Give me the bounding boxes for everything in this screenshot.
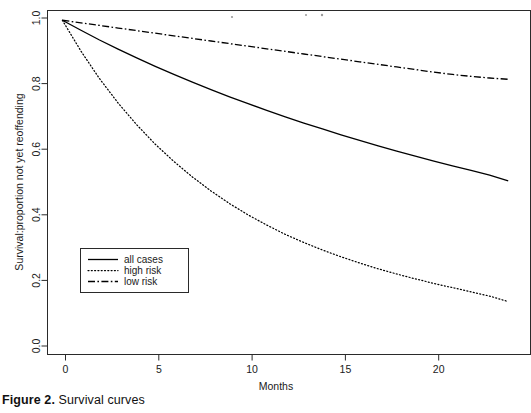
scan-speck xyxy=(321,14,323,16)
legend-label: high risk xyxy=(124,265,162,276)
x-tick-label: 10 xyxy=(246,363,258,375)
legend-label: all cases xyxy=(124,254,163,265)
x-tick-label: 20 xyxy=(433,363,445,375)
y-tick-label: 0.8 xyxy=(30,76,42,91)
x-tick-label: 5 xyxy=(156,363,162,375)
y-tick-label: 1.0 xyxy=(30,11,42,26)
chart-legend[interactable]: all cases high risk low risk xyxy=(81,249,189,293)
figure-caption-body: Survival curves xyxy=(59,393,145,407)
curve-low-risk xyxy=(62,20,508,79)
curve-all-cases xyxy=(62,20,508,181)
figure-container: 1.0 0.8 0.6 0.4 0.2 0.0 Survival:proport… xyxy=(0,0,531,413)
y-tick-label: 0.2 xyxy=(30,273,42,288)
y-axis: 1.0 0.8 0.6 0.4 0.2 0.0 Survival:proport… xyxy=(13,11,48,354)
figure-caption: Figure 2. Survival curves xyxy=(2,393,145,407)
scan-speck xyxy=(305,14,307,16)
x-tick-label: 15 xyxy=(340,363,352,375)
x-axis: 0 5 10 15 20 Months xyxy=(63,355,445,393)
survival-curves-chart: 1.0 0.8 0.6 0.4 0.2 0.0 Survival:proport… xyxy=(0,0,531,413)
x-axis-title: Months xyxy=(259,380,293,392)
x-tick-label: 0 xyxy=(63,363,69,375)
scan-speck xyxy=(231,16,233,18)
y-tick-label: 0.0 xyxy=(30,339,42,354)
y-axis-title: Survival:proportion not yet reoffending xyxy=(13,93,25,270)
plot-frame xyxy=(48,11,531,355)
legend-label: low risk xyxy=(124,276,158,287)
y-tick-label: 0.6 xyxy=(30,142,42,157)
y-tick-label: 0.4 xyxy=(30,207,42,222)
figure-caption-label: Figure 2. xyxy=(2,393,55,407)
